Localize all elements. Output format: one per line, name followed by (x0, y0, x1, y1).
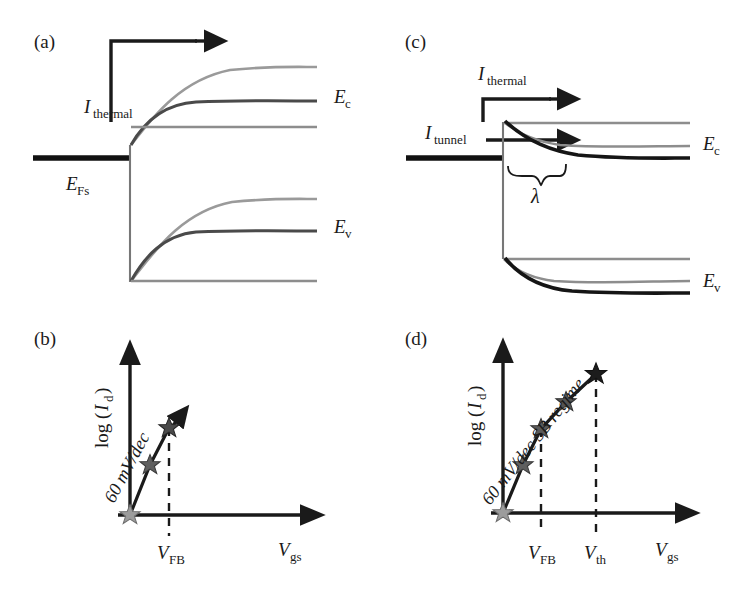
panel-b-tag: (b) (34, 328, 56, 350)
panel-a-ithermal-label: I thermal (83, 96, 133, 121)
panel-b-marker-star-1 (120, 505, 140, 524)
panel-a-efs-label: E Fs (65, 173, 89, 198)
panel-c-tag: (c) (405, 31, 426, 53)
panel-c-ithermal-label: I thermal (477, 63, 527, 88)
panel-d-tag: (d) (405, 328, 427, 350)
ithermal-I-glyph-c: I (477, 63, 486, 84)
panel-d-id-sub: d (474, 393, 489, 400)
panel-c-itunnel-label: I tunnel (424, 122, 467, 147)
panel-d-vfb-label: V FB (528, 542, 556, 567)
panel-d-log-close: ) (464, 386, 486, 392)
panel-b-log-close: ) (91, 388, 113, 394)
panel-c-ec-label: E c (702, 133, 720, 158)
panel-b-vfb-sub: FB (169, 552, 185, 567)
panel-a-ev-label: E v (333, 216, 352, 241)
panel-a-ec-label: E c (333, 86, 351, 111)
panel-a-ev-curve-mid (131, 231, 317, 281)
panel-d-log-open: log ( (464, 411, 486, 446)
figure-root: (a) I thermal E Fs E c (0, 0, 745, 591)
panel-d-vfb-sub: FB (540, 552, 556, 567)
panel-b-vfb-label: V FB (157, 542, 185, 567)
ithermal-sub-c: thermal (487, 73, 527, 88)
figure-canvas: (a) I thermal E Fs E c (0, 0, 745, 591)
panel-d-slope-label: 60 mV/dec SB regime (477, 374, 588, 508)
ithermal-sub-a: thermal (93, 106, 133, 121)
ec-sub-a: c (345, 96, 351, 111)
panel-c-lambda-label: λ (530, 185, 540, 207)
panel-a-ev-curve-light (131, 199, 317, 281)
panel-d: (d) log ( I d ) V gs V FB V th (405, 328, 680, 567)
ithermal-I-glyph-a: I (83, 96, 92, 117)
panel-c: (c) I thermal I tunnel λ (405, 31, 721, 295)
panel-d-id-glyph: I (464, 401, 485, 410)
panel-a-tag: (a) (34, 31, 55, 53)
panel-b-id-sub: d (101, 395, 116, 402)
efs-sub-a: Fs (77, 183, 89, 198)
panel-d-vgs-sub: gs (667, 549, 679, 564)
panel-b-log-open: log ( (91, 413, 113, 448)
ithermal-arrow-path-c (483, 99, 551, 122)
panel-a-ec-curve-light (131, 67, 317, 145)
ev-sub-c: v (714, 280, 721, 295)
panel-c-ec-curve-dark (505, 121, 690, 158)
panel-c-ev-label: E v (702, 270, 721, 295)
itunnel-I-glyph-c: I (424, 122, 433, 143)
ec-sub-c: c (714, 143, 720, 158)
panel-d-data-line (503, 374, 596, 513)
panel-d-y-axis-label: log ( I d ) (464, 386, 489, 446)
itunnel-sub-c: tunnel (434, 132, 467, 147)
panel-a-ec-curve-mid (131, 101, 317, 145)
panel-a: (a) I thermal E Fs E c (33, 31, 352, 282)
panel-d-x-axis-label: V gs (655, 539, 679, 564)
panel-d-vth-sub: th (596, 552, 607, 567)
panel-c-lambda-brace (508, 164, 566, 185)
panel-b-x-axis-label: V gs (278, 539, 302, 564)
ev-sub-a: v (345, 226, 352, 241)
panel-b-id-glyph: I (91, 403, 112, 412)
panel-c-ithermal-arrow (483, 99, 562, 122)
panel-b: (b) log ( I d ) V gs V FB 60 mV (34, 328, 305, 567)
panel-d-marker-star-1 (493, 503, 513, 522)
panel-c-ec-curve-mid (504, 122, 690, 147)
panel-d-vth-label: V th (584, 542, 607, 567)
panel-b-y-axis-label: log ( I d ) (91, 388, 116, 448)
panel-b-vgs-sub: gs (290, 549, 302, 564)
